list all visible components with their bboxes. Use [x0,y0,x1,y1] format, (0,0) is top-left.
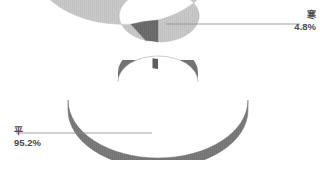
slice-label-han-percent: 4.8% [272,21,316,32]
doughnut-slice-han-inner-edge [153,58,159,69]
doughnut-outline [68,100,248,168]
slice-label-ping-percent: 95.2% [14,137,74,148]
slice-label-han-category: 寒 [272,10,316,21]
doughnut-slice-ping [34,0,214,42]
doughnut-chart: 寒 4.8% 平 95.2% [0,0,320,171]
slice-label-ping: 平 95.2% [14,126,74,148]
slice-label-han: 寒 4.8% [272,10,316,32]
doughnut-inner-wall [118,46,198,108]
slice-label-ping-category: 平 [14,126,74,137]
